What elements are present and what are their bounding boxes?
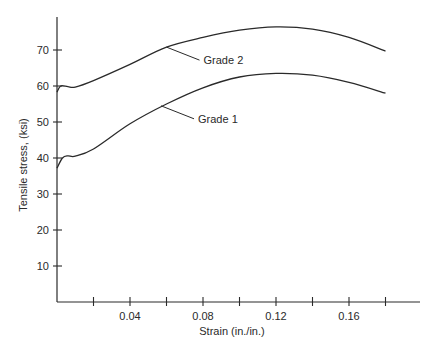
series-annotations: Grade 2Grade 1 <box>161 47 243 125</box>
annotation-leader <box>167 47 200 60</box>
y-tick-label: 10 <box>37 260 49 272</box>
y-tick-label: 40 <box>37 152 49 164</box>
x-tick-label: 0.12 <box>265 310 286 322</box>
x-tick-label: 0.16 <box>338 310 359 322</box>
series-lines <box>57 27 386 168</box>
y-ticks: 10203040506070 <box>37 44 62 272</box>
y-tick-label: 50 <box>37 116 49 128</box>
series-label-grade-2: Grade 2 <box>204 54 244 66</box>
y-tick-label: 60 <box>37 80 49 92</box>
x-tick-label: 0.04 <box>119 310 140 322</box>
tensile-stress-strain-chart: 10203040506070 0.040.080.120.16 Grade 2G… <box>0 0 437 354</box>
y-tick-label: 20 <box>37 224 49 236</box>
annotation-leader <box>161 106 194 119</box>
y-tick-label: 70 <box>37 44 49 56</box>
y-tick-label: 30 <box>37 188 49 200</box>
x-ticks: 0.040.080.120.16 <box>94 297 386 322</box>
x-tick-label: 0.08 <box>192 310 213 322</box>
x-axis-title: Strain (in./in.) <box>199 325 264 337</box>
y-axis-title: Tensile stress, (ksi) <box>17 118 29 212</box>
series-label-grade-1: Grade 1 <box>198 113 238 125</box>
